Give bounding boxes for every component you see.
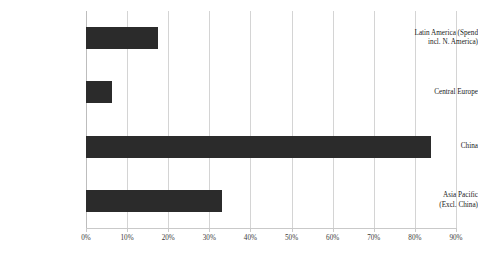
- x-axis-line: [86, 228, 457, 229]
- gridline-70%: [374, 11, 375, 228]
- category-label-line: Asia Pacific: [396, 191, 478, 201]
- bar-1: [86, 81, 112, 103]
- tickmark-70%: [374, 228, 375, 232]
- gridline-40%: [250, 11, 251, 228]
- category-label-2: China: [396, 142, 478, 152]
- tick-label-5: 50%: [272, 234, 312, 242]
- tickmark-20%: [168, 228, 169, 232]
- category-label-line: China: [396, 142, 478, 152]
- tick-label-6: 60%: [313, 234, 353, 242]
- category-label-3: Asia Pacific(Excl. China): [396, 191, 478, 210]
- gridline-50%: [292, 11, 293, 228]
- tick-label-0: 0%: [66, 234, 106, 242]
- tickmark-0%: [86, 228, 87, 232]
- category-label-0: Latin America (Spendincl. N. America): [396, 29, 478, 48]
- tickmark-90%: [456, 228, 457, 232]
- tick-label-4: 40%: [230, 234, 270, 242]
- tickmark-80%: [415, 228, 416, 232]
- tick-label-1: 10%: [107, 234, 147, 242]
- tickmark-40%: [250, 228, 251, 232]
- tick-label-2: 20%: [148, 234, 188, 242]
- bar-chart: Latin America (Spendincl. N. America)Cen…: [0, 0, 478, 265]
- tick-label-9: 90%: [436, 234, 476, 242]
- tickmark-50%: [292, 228, 293, 232]
- bar-3: [86, 190, 222, 212]
- tick-label-7: 70%: [354, 234, 394, 242]
- category-label-line: Central Europe: [396, 88, 478, 98]
- category-label-line: incl. N. America): [396, 38, 478, 48]
- category-label-1: Central Europe: [396, 88, 478, 98]
- tickmark-10%: [127, 228, 128, 232]
- bar-0: [86, 27, 158, 49]
- tickmark-60%: [333, 228, 334, 232]
- tick-label-3: 30%: [189, 234, 229, 242]
- bar-2: [86, 136, 431, 158]
- tickmark-30%: [209, 228, 210, 232]
- category-label-line: (Excl. China): [396, 201, 478, 211]
- tick-label-8: 80%: [395, 234, 435, 242]
- gridline-60%: [333, 11, 334, 228]
- category-label-line: Latin America (Spend: [396, 29, 478, 39]
